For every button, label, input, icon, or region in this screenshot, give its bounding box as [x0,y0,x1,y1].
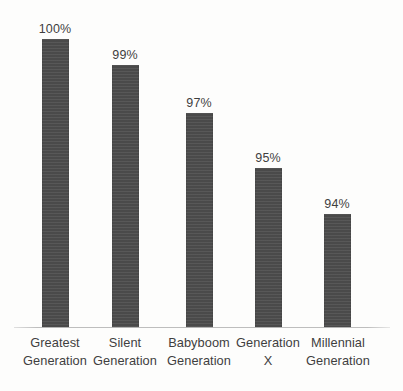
bar-column: 100% [20,0,90,328]
bar-group-silent-generation[interactable]: 99% [90,0,160,328]
category-axis: Greatest Generation Silent Generation Ba… [0,334,403,389]
category-label-millennial-generation: Millennial Generation [299,334,377,370]
bar-value-label: 99% [112,49,137,62]
bar-column: 99% [90,0,160,328]
category-label-silent-generation: Silent Generation [86,334,164,370]
bar-value-label: 95% [255,152,280,165]
bar-column: 97% [164,0,234,328]
bar-chart: 100% 99% 97% 95% 94% [0,0,403,391]
category-label-line-2: Generation [16,352,94,370]
category-label-greatest-generation: Greatest Generation [16,334,94,370]
bar-rect-silent-generation[interactable] [112,65,139,328]
category-label-line-1: Babyboom [160,334,238,352]
bar-column: 94% [302,0,372,328]
category-label-babyboom-generation: Babyboom Generation [160,334,238,370]
x-axis-line [14,327,390,328]
category-label-line-2: Generation [86,352,164,370]
bar-value-label: 97% [186,97,211,110]
category-label-generation-x: Generation X [229,334,307,370]
bar-group-babyboom-generation[interactable]: 97% [164,0,234,328]
bar-rect-generation-x[interactable] [255,168,282,328]
bar-rect-babyboom-generation[interactable] [186,113,213,328]
bar-rect-greatest-generation[interactable] [42,39,69,328]
category-label-line-1: Greatest [16,334,94,352]
plot-area: 100% 99% 97% 95% 94% [0,0,403,328]
category-label-line-1: Millennial [299,334,377,352]
bar-group-millennial-generation[interactable]: 94% [302,0,372,328]
category-label-line-1: Silent [86,334,164,352]
bar-group-generation-x[interactable]: 95% [233,0,303,328]
bar-rect-millennial-generation[interactable] [324,214,351,328]
category-label-line-2: Generation [160,352,238,370]
bar-column: 95% [233,0,303,328]
bar-group-greatest-generation[interactable]: 100% [20,0,90,328]
bar-value-label: 100% [39,23,71,36]
bar-value-label: 94% [324,198,349,211]
category-label-line-2: X [229,352,307,370]
category-label-line-1: Generation [229,334,307,352]
category-label-line-2: Generation [299,352,377,370]
